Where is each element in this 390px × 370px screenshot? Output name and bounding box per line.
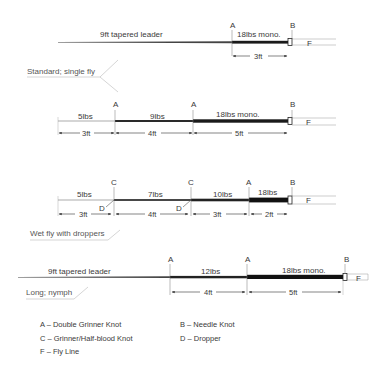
tapered-leader xyxy=(18,276,170,278)
legend-item: C – Grinner/Half-blood Knot xyxy=(40,334,133,343)
legend-item: B – Needle Knot xyxy=(180,320,236,329)
dimension-label: 3ft xyxy=(79,210,88,219)
diagram-long-nymph: F A A B 9ft tapered leader 12lbs 18lbs m… xyxy=(18,255,368,299)
section-label: 18lbs xyxy=(258,188,277,197)
fly-line-label: F xyxy=(306,196,311,205)
dropper-line xyxy=(106,200,114,207)
knot-label: B xyxy=(290,100,295,109)
section-label: 18lbs mono. xyxy=(237,30,281,39)
dropper-line xyxy=(183,200,191,207)
knot-label: B xyxy=(290,21,295,30)
section-label: 18lbs mono. xyxy=(282,266,326,275)
dropper-label: D xyxy=(99,204,105,213)
section-label: 7lbs xyxy=(148,190,163,199)
fly-line-label: F xyxy=(307,39,312,48)
dimension-label: 3ft xyxy=(82,129,91,138)
section-label: 10lbs xyxy=(213,190,232,199)
diagram-wet-fly-droppers: F C C A B D D 5lbs 7lbs 10lbs 18lbs 3ft … xyxy=(30,178,336,240)
dimension-label: 5ft xyxy=(289,288,298,297)
knot-label: A xyxy=(168,255,174,264)
section-label: 5lbs xyxy=(77,190,92,199)
diagram-caption: Long; nymph xyxy=(26,288,72,297)
dimension-label: 4ft xyxy=(148,129,157,138)
leader-diagrams: F A B 9ft tapered leader 18lbs mono. 3ft… xyxy=(0,0,390,370)
dimension-label: 5ft xyxy=(235,129,244,138)
diagram-caption: Standard; single fly xyxy=(27,67,95,76)
knot-label: A xyxy=(246,178,252,187)
knot-label: A xyxy=(245,255,251,264)
diagram-caption: Wet fly with droppers xyxy=(30,229,105,238)
section-label: 9ft tapered leader xyxy=(100,30,163,39)
needle-knot xyxy=(288,196,292,204)
knot-label: A xyxy=(113,100,119,109)
dimension-label: 3ft xyxy=(213,210,222,219)
legend-item: F – Fly Line xyxy=(40,347,79,356)
diagram-standard: F A B 9ft tapered leader 18lbs mono. 3ft… xyxy=(27,21,336,92)
diagram-three-section: F A A B 5lbs 9lbs 18lbs mono. 3ft 4ft 5f… xyxy=(58,100,336,138)
knot-label: C xyxy=(111,178,117,187)
knot-label: A xyxy=(230,21,236,30)
section-label: 9ft tapered leader xyxy=(48,267,111,276)
dimension-label: 2ft xyxy=(265,210,274,219)
knot-label: B xyxy=(344,255,349,264)
dimension-label: 4ft xyxy=(148,210,157,219)
needle-knot xyxy=(288,39,292,46)
section-label: 12lbs xyxy=(201,267,220,276)
knot-label: C xyxy=(188,178,194,187)
legend-item: A – Double Grinner Knot xyxy=(40,320,122,329)
knot-label: A xyxy=(191,100,197,109)
needle-knot xyxy=(288,118,292,125)
dropper-label: D xyxy=(176,204,182,213)
mono-section-18lbs xyxy=(232,41,288,44)
legend-item: D – Dropper xyxy=(180,334,221,343)
knot-label: B xyxy=(290,178,295,187)
dimension-label: 3ft xyxy=(254,52,263,61)
fly-line-label: F xyxy=(356,274,361,283)
legend: A – Double Grinner Knot B – Needle Knot … xyxy=(40,320,236,356)
dimension-label: 4ft xyxy=(204,288,213,297)
tapered-leader xyxy=(58,41,232,43)
section-label: 5lbs xyxy=(78,112,93,121)
fly-line-label: F xyxy=(306,118,311,127)
section-label: 9lbs xyxy=(150,112,165,121)
needle-knot xyxy=(343,274,347,281)
section-label: 18lbs mono. xyxy=(216,110,260,119)
